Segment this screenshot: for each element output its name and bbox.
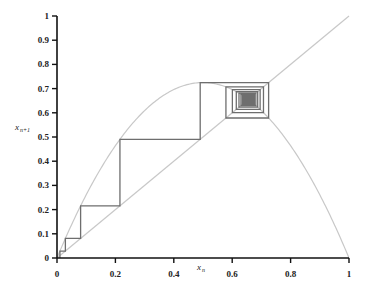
cobweb-chart: 00.20.40.60.8100.10.20.30.40.50.60.70.80… (0, 0, 368, 291)
map-curve (57, 83, 349, 258)
y-tick-label: 0.8 (38, 59, 50, 69)
x-tick-label: 0.2 (110, 269, 122, 279)
y-tick-label: 0 (45, 253, 50, 263)
y-tick-label: 0.7 (38, 84, 50, 94)
x-tick-label: 0.6 (227, 269, 239, 279)
y-tick-label: 0.2 (38, 205, 50, 215)
cobweb-path (60, 83, 269, 258)
y-tick-label: 0.5 (38, 132, 50, 142)
y-tick-label: 0.3 (38, 180, 50, 190)
x-tick-label: 0.8 (285, 269, 297, 279)
identity-line (57, 16, 349, 258)
y-tick-label: 0.4 (38, 156, 50, 166)
x-axis-label: xn (196, 262, 205, 273)
x-tick-label: 0 (55, 269, 60, 279)
y-tick-label: 0.1 (38, 229, 50, 239)
y-tick-label: 0.6 (38, 108, 50, 118)
x-tick-label: 0.4 (168, 269, 180, 279)
axes: 00.20.40.60.8100.10.20.30.40.50.60.70.80… (38, 11, 352, 279)
y-tick-label: 1 (45, 11, 50, 21)
y-tick-label: 0.9 (38, 35, 50, 45)
plot-area (57, 16, 349, 258)
y-axis-label: xn+1 (14, 122, 30, 133)
x-tick-label: 1 (347, 269, 352, 279)
